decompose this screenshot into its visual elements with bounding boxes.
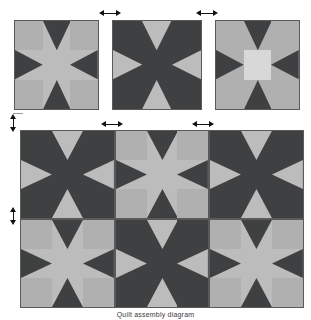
quilt-assembly-diagram: Quilt assembly diagram xyxy=(0,0,311,320)
block-corner-unit xyxy=(210,189,241,218)
block-corner-unit xyxy=(70,21,98,50)
block-flying-geese-unit xyxy=(172,50,201,79)
block-flying-geese-unit xyxy=(272,160,303,189)
block-corner-unit xyxy=(116,278,147,307)
block-flying-geese-unit xyxy=(147,220,178,249)
block-center-square xyxy=(43,50,71,79)
arrowhead-down-icon xyxy=(10,220,16,225)
block-corner-unit xyxy=(271,80,299,109)
block-corner-unit xyxy=(210,220,241,249)
dimension-arrow-row-sash-1 xyxy=(9,114,18,132)
block-corner-unit xyxy=(15,80,43,109)
block-center-square xyxy=(147,249,178,278)
block-corner-unit xyxy=(113,80,142,109)
block-flying-geese-unit xyxy=(83,249,114,278)
block-flying-geese-unit xyxy=(147,189,178,218)
block-flying-geese-unit xyxy=(216,50,244,79)
quilt-block-dark-dominant-sawtooth-star xyxy=(209,130,304,219)
block-corner-unit xyxy=(83,131,114,160)
block-flying-geese-unit xyxy=(210,249,241,278)
figure-caption: Quilt assembly diagram xyxy=(0,311,311,318)
quilt-block-light-dominant-sawtooth-star xyxy=(115,130,210,219)
block-corner-unit xyxy=(70,80,98,109)
dimension-arrow-grid-sash-2 xyxy=(192,120,214,129)
block-corner-unit xyxy=(177,278,208,307)
block-corner-unit xyxy=(216,80,244,109)
block-flying-geese-unit xyxy=(43,21,71,50)
block-flying-geese-unit xyxy=(21,160,52,189)
block-flying-geese-unit xyxy=(70,50,98,79)
block-flying-geese-unit xyxy=(244,21,272,50)
block-corner-unit xyxy=(116,220,147,249)
block-corner-unit xyxy=(272,278,303,307)
dimension-arrow-top-sash-2 xyxy=(196,9,218,18)
block-corner-unit xyxy=(21,131,52,160)
block-flying-geese-unit xyxy=(52,131,83,160)
block-corner-unit xyxy=(113,21,142,50)
block-flying-geese-unit xyxy=(210,160,241,189)
block-flying-geese-unit xyxy=(241,220,272,249)
arrowhead-right-icon xyxy=(118,121,123,127)
dimension-arrow-grid-sash-1 xyxy=(101,120,123,129)
block-flying-geese-unit xyxy=(113,50,142,79)
quilt-block-light-dominant-sawtooth-star xyxy=(209,219,304,308)
block-flying-geese-unit xyxy=(147,131,178,160)
block-flying-geese-unit xyxy=(43,80,71,109)
block-center-square xyxy=(52,160,83,189)
quilt-block-dark-dominant-sawtooth-star xyxy=(20,130,115,219)
block-flying-geese-unit xyxy=(272,249,303,278)
block-flying-geese-unit xyxy=(241,189,272,218)
block-center-square xyxy=(52,249,83,278)
block-flying-geese-unit xyxy=(116,249,147,278)
block-corner-unit xyxy=(83,220,114,249)
block-corner-unit xyxy=(15,21,43,50)
block-flying-geese-unit xyxy=(83,160,114,189)
arrowhead-right-icon xyxy=(116,10,121,16)
block-center-square xyxy=(241,249,272,278)
block-corner-unit xyxy=(116,131,147,160)
block-center-square xyxy=(241,160,272,189)
block-corner-unit xyxy=(172,80,201,109)
quilt-block-dark-dominant-sawtooth-star xyxy=(112,20,202,110)
block-corner-unit xyxy=(210,278,241,307)
block-flying-geese-unit xyxy=(52,189,83,218)
block-flying-geese-unit xyxy=(52,220,83,249)
block-center-square xyxy=(147,160,178,189)
block-flying-geese-unit xyxy=(21,249,52,278)
block-flying-geese-unit xyxy=(244,80,272,109)
block-flying-geese-unit xyxy=(142,80,171,109)
block-corner-unit xyxy=(177,189,208,218)
arrowhead-down-icon xyxy=(10,127,16,132)
block-corner-unit xyxy=(21,278,52,307)
block-corner-unit xyxy=(21,220,52,249)
quilt-block-light-dominant-sawtooth-star xyxy=(14,20,99,110)
block-corner-unit xyxy=(272,131,303,160)
block-flying-geese-unit xyxy=(147,278,178,307)
block-flying-geese-unit xyxy=(271,50,299,79)
block-corner-unit xyxy=(272,189,303,218)
block-corner-unit xyxy=(177,220,208,249)
block-corner-unit xyxy=(172,21,201,50)
block-corner-unit xyxy=(210,131,241,160)
block-corner-unit xyxy=(83,189,114,218)
block-flying-geese-unit xyxy=(177,160,208,189)
block-corner-unit xyxy=(83,278,114,307)
arrowhead-right-icon xyxy=(213,10,218,16)
block-center-square xyxy=(142,50,171,79)
block-flying-geese-unit xyxy=(15,50,43,79)
dimension-arrow-top-sash-1 xyxy=(99,9,121,18)
block-corner-unit xyxy=(21,189,52,218)
block-corner-unit xyxy=(177,131,208,160)
quilt-block-light-dominant-sawtooth-star xyxy=(20,219,115,308)
block-flying-geese-unit xyxy=(177,249,208,278)
block-corner-unit xyxy=(272,220,303,249)
block-center-square xyxy=(244,50,272,79)
block-flying-geese-unit xyxy=(52,278,83,307)
block-corner-unit xyxy=(271,21,299,50)
arrowhead-right-icon xyxy=(209,121,214,127)
block-flying-geese-unit xyxy=(116,160,147,189)
block-corner-unit xyxy=(216,21,244,50)
block-flying-geese-unit xyxy=(241,131,272,160)
dimension-arrow-row-sash-2 xyxy=(9,207,18,225)
quilt-block-dark-dominant-sawtooth-star xyxy=(115,219,210,308)
